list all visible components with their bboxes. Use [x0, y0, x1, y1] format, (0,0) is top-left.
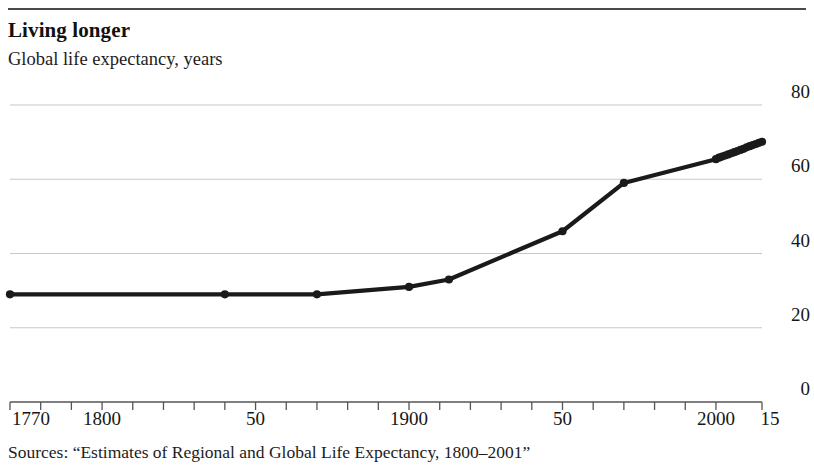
data-point-2015: [758, 138, 766, 146]
x-axis-label-1800: 1800: [83, 409, 121, 429]
y-axis-label-40: 40: [791, 231, 810, 250]
data-point-1840: [221, 290, 229, 298]
x-axis-label-2000: 2000: [697, 409, 735, 429]
data-point-1950: [558, 227, 566, 235]
chart-figure: Living longer Global life expectancy, ye…: [0, 0, 814, 466]
data-point-markers: [6, 138, 766, 299]
data-point-1913: [445, 275, 453, 283]
data-point-1900: [405, 283, 413, 291]
plot-area: [0, 0, 814, 466]
x-axis-label-1850: 50: [246, 409, 265, 429]
source-note: Sources: “Estimates of Regional and Glob…: [8, 441, 530, 463]
data-line-global-life-expectancy: [10, 142, 762, 295]
y-axis-label-0: 0: [801, 379, 811, 398]
x-axis-ticks: [10, 402, 762, 410]
y-axis-label-20: 20: [791, 305, 810, 324]
x-axis-label-1770: 1770: [12, 409, 50, 429]
x-axis-label-2015: 15: [761, 409, 780, 429]
y-axis-label-80: 80: [791, 82, 810, 101]
data-point-1870: [313, 290, 321, 298]
line-chart-svg: [0, 0, 814, 466]
y-axis-label-60: 60: [791, 156, 810, 175]
x-axis-label-1950: 50: [553, 409, 572, 429]
data-point-1770: [6, 290, 14, 298]
x-axis-label-1900: 1900: [390, 409, 428, 429]
data-point-1970: [620, 179, 628, 187]
